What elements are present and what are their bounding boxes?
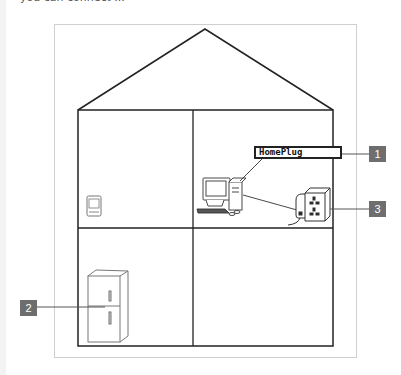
- callout-badge-1: 1: [369, 146, 386, 162]
- computer-icon: [197, 178, 246, 216]
- house-diagram: [0, 0, 401, 375]
- homeplug-adapter-icon: [288, 194, 307, 225]
- wall-socket-icon: [305, 188, 330, 221]
- refrigerator-icon: [88, 270, 128, 342]
- ethernet-cable: [243, 195, 297, 210]
- roof: [78, 29, 333, 110]
- callout-badge-2: 2: [20, 300, 37, 316]
- callout-badge-3: 3: [369, 201, 386, 217]
- wall-display-icon: [87, 196, 101, 216]
- label-connector: [240, 159, 262, 181]
- homeplug-label: HomePlug: [254, 146, 342, 159]
